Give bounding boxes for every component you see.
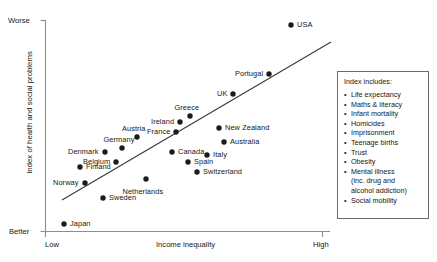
data-point-dot[interactable] [173,129,178,134]
y-axis-bottom-label: Better [9,227,29,236]
data-point-label: Canada [178,148,204,155]
legend-item: Social mobility [344,196,424,206]
data-point-dot[interactable] [100,195,105,200]
legend-item: Trust [344,148,424,158]
legend-item: Life expectancy [344,90,424,100]
data-point-dot[interactable] [77,164,82,169]
data-point-label: Denmark [68,148,99,155]
data-point-dot[interactable] [134,134,139,139]
data-point-dot[interactable] [61,221,66,226]
data-point-dot[interactable] [169,149,174,154]
data-point-label: Spain [194,158,213,165]
legend-item: Obesity [344,157,424,167]
data-point-label: Italy [213,151,227,158]
legend-item: Homicides [344,119,424,129]
data-point-label: Japan [70,220,91,227]
data-point-dot[interactable] [230,91,235,96]
data-point-dot[interactable] [119,145,124,150]
data-point-label: Greece [175,104,200,111]
legend-item: Mental illness (inc. drug and alcohol ad… [344,167,424,196]
x-axis-right-label: High [313,240,329,249]
y-axis-title: Index of health and social problems [25,38,34,188]
legend-title: Index includes: [344,77,424,86]
data-point-label: New Zealand [225,124,269,131]
data-point-label: Portugal [235,70,263,77]
regression-trendline [62,42,331,200]
data-point-dot[interactable] [288,22,293,27]
data-point-label: Austria [122,125,146,132]
data-point-label: France [147,128,170,135]
data-point-label: Norway [53,179,79,186]
data-point-dot[interactable] [102,149,107,154]
data-point-dot[interactable] [143,176,148,181]
data-point-label: UK [217,90,227,97]
data-point-dot[interactable] [113,159,118,164]
data-point-label: Switzerland [203,168,242,175]
x-axis-left-label: Low [45,240,59,249]
data-point-label: Ireland [151,118,174,125]
index-legend-box: Index includes: Life expectancyMaths & l… [337,71,429,219]
x-axis-title: Income inequality [156,240,215,249]
data-point-dot[interactable] [177,119,182,124]
data-point-label: Australia [230,138,259,145]
legend-item: Infant mortality [344,109,424,119]
data-point-label: Germany [104,136,135,143]
data-point-label: Sweden [109,194,136,201]
data-point-label: Finland [86,163,111,170]
legend-item-list: Life expectancyMaths & literacyInfant mo… [344,90,424,205]
legend-item: Imprisonment [344,128,424,138]
data-point-dot[interactable] [216,125,221,130]
data-point-dot[interactable] [266,71,271,76]
data-point-label: USA [297,21,312,28]
data-point-dot[interactable] [194,169,199,174]
data-point-dot[interactable] [185,159,190,164]
data-point-dot[interactable] [82,180,87,185]
axis-lines [41,20,331,237]
data-point-dot[interactable] [221,139,226,144]
legend-item: Maths & literacy [344,100,424,110]
data-point-dot[interactable] [187,113,192,118]
legend-item: Teenage births [344,138,424,148]
y-axis-top-label: Worse [8,16,30,25]
